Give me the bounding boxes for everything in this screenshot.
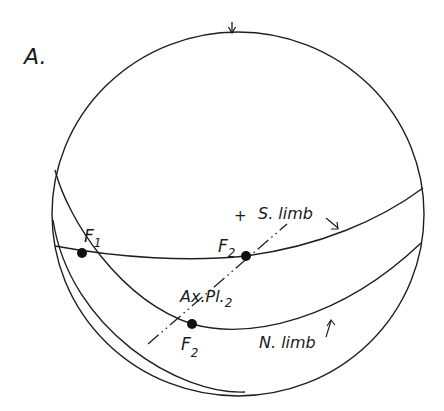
stereonet-diagram: A. + F1 F2 F2 Ax.Pl.2 S. limb N. limb bbox=[0, 0, 444, 411]
n-limb-leader-arrow-icon bbox=[326, 320, 335, 337]
panel-label: A. bbox=[22, 44, 46, 69]
axial-plane-label: Ax.Pl.2 bbox=[179, 287, 232, 310]
lower-great-circle bbox=[53, 220, 245, 392]
s-limb-label: S. limb bbox=[258, 204, 313, 223]
f2-upper-point bbox=[241, 251, 251, 261]
f2-lower-point bbox=[187, 319, 197, 329]
f2-lower-label: F2 bbox=[181, 334, 198, 360]
center-mark: + bbox=[234, 207, 247, 225]
f2-upper-label: F2 bbox=[218, 236, 235, 260]
n-limb-great-circle bbox=[55, 170, 421, 329]
f1-point bbox=[77, 248, 87, 258]
s-limb-leader-arrow-icon bbox=[326, 218, 338, 229]
n-limb-label: N. limb bbox=[259, 333, 316, 352]
